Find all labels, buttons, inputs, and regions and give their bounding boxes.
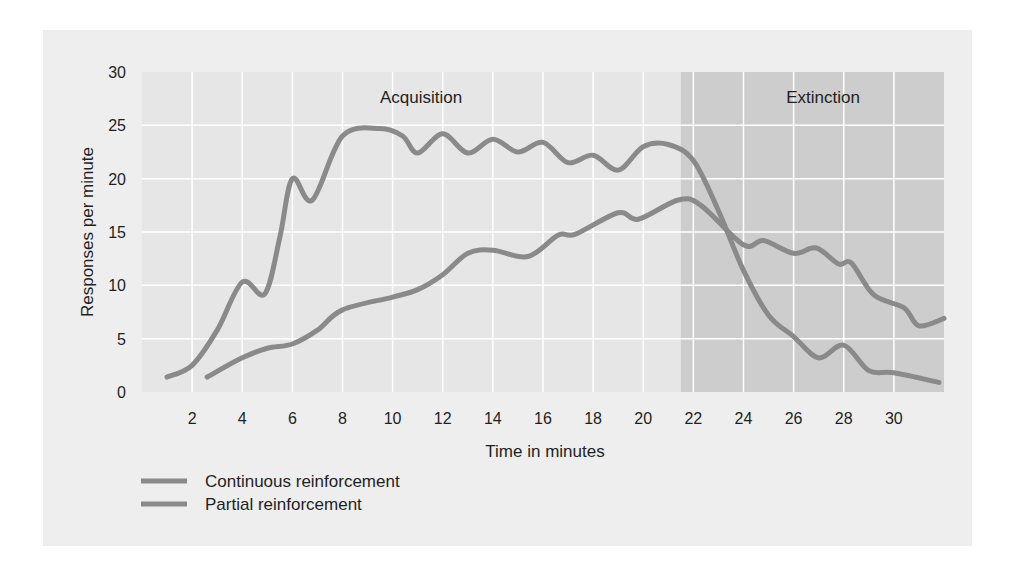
x-tick-label: 30 [885,410,903,427]
y-tick-label: 25 [108,117,126,134]
x-tick-label: 10 [384,410,402,427]
x-tick-label: 24 [735,410,753,427]
legend-label-partial: Partial reinforcement [205,495,362,514]
x-tick-label: 14 [484,410,502,427]
x-tick-label: 12 [434,410,452,427]
y-tick-label: 30 [108,64,126,81]
y-tick-label: 15 [108,224,126,241]
x-tick-label: 16 [534,410,552,427]
acquisition-label: Acquisition [380,88,462,107]
y-tick-label: 5 [117,331,126,348]
y-tick-label: 0 [117,384,126,401]
x-tick-label: 8 [338,410,347,427]
y-axis-label: Responses per minute [78,147,97,317]
x-tick-label: 18 [584,410,602,427]
x-tick-label: 26 [785,410,803,427]
y-tick-label: 10 [108,277,126,294]
extinction-label: Extinction [786,88,860,107]
x-tick-label: 6 [288,410,297,427]
y-axis-ticks: 051015202530 [108,64,126,401]
x-tick-label: 20 [634,410,652,427]
legend: Continuous reinforcement Partial reinfor… [141,472,400,514]
x-tick-label: 22 [684,410,702,427]
x-tick-label: 28 [835,410,853,427]
legend-label-continuous: Continuous reinforcement [205,472,400,491]
y-tick-label: 20 [108,171,126,188]
x-tick-label: 4 [238,410,247,427]
line-chart: Acquisition Extinction 051015202530 2468… [0,0,1012,565]
x-tick-label: 2 [188,410,197,427]
x-axis-ticks: 24681012141618202224262830 [188,410,903,427]
x-axis-label: Time in minutes [485,442,604,461]
